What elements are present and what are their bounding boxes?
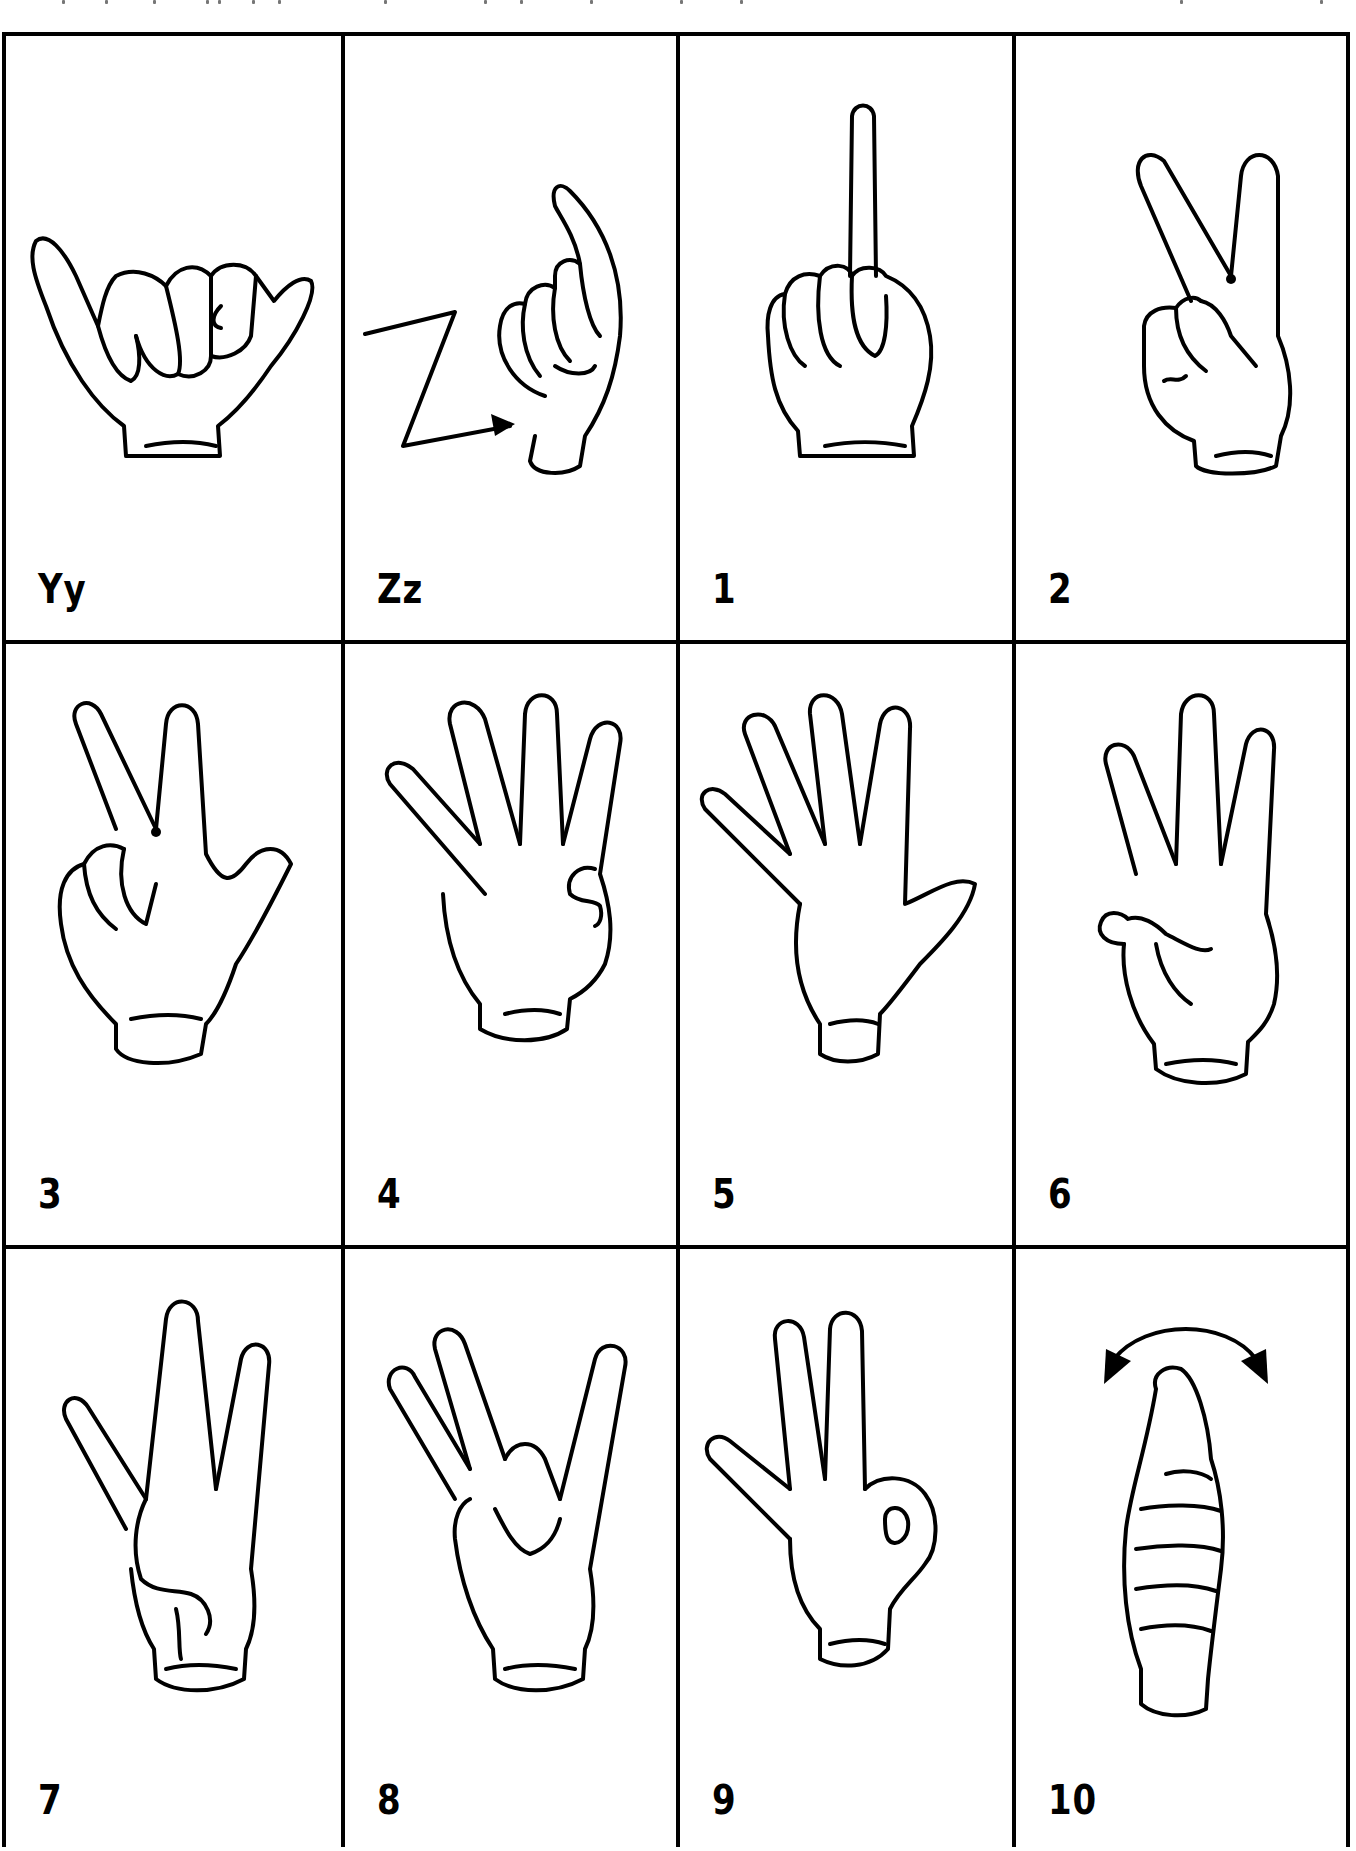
sign-label: Yy [38, 566, 86, 612]
sign-cell-z: Zz [345, 36, 676, 640]
sign-label: 2 [1048, 566, 1073, 612]
hand-sign-z-icon [345, 36, 676, 640]
sign-label: 9 [712, 1777, 737, 1823]
hand-sign-7-icon [6, 1249, 341, 1851]
sign-label: Zz [377, 566, 423, 612]
hand-sign-3-icon [6, 644, 341, 1245]
hand-sign-9-icon [680, 1249, 1012, 1851]
sign-cell-1: 1 [680, 36, 1012, 640]
hand-sign-4-icon [345, 644, 676, 1245]
sign-cell-7: 7 [6, 1249, 341, 1851]
hand-sign-8-icon [345, 1249, 676, 1851]
cropped-previous-page-text [0, 0, 1356, 14]
sign-cell-2: 2 [1016, 36, 1348, 640]
hand-sign-2-icon [1016, 36, 1348, 640]
sign-label: 10 [1048, 1777, 1097, 1823]
sign-label: 7 [38, 1777, 63, 1823]
sign-cell-6: 6 [1016, 644, 1348, 1245]
hand-sign-1-icon [680, 36, 1012, 640]
sign-cell-8: 8 [345, 1249, 676, 1851]
sign-cell-10: 10 [1016, 1249, 1348, 1851]
sign-label: 4 [377, 1171, 402, 1217]
sign-label: 5 [712, 1171, 737, 1217]
sign-label: 1 [712, 566, 737, 612]
hand-sign-5-icon [680, 644, 1012, 1245]
sign-cell-5: 5 [680, 644, 1012, 1245]
sign-cell-y: Yy [6, 36, 341, 640]
sign-label: 6 [1048, 1171, 1073, 1217]
hand-sign-y-icon [6, 36, 341, 640]
sign-label: 8 [377, 1777, 402, 1823]
sign-cell-4: 4 [345, 644, 676, 1245]
sign-chart-grid: Yy Zz 1 [2, 32, 1350, 1847]
sign-cell-3: 3 [6, 644, 341, 1245]
hand-sign-10-icon [1016, 1249, 1348, 1851]
sign-label: 3 [38, 1171, 63, 1217]
sign-cell-9: 9 [680, 1249, 1012, 1851]
hand-sign-6-icon [1016, 644, 1348, 1245]
